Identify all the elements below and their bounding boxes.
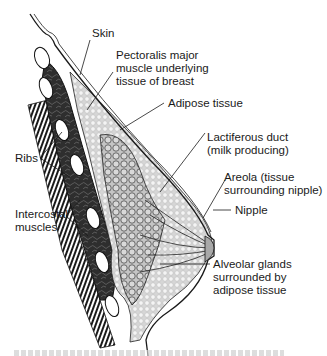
label-pectoralis-line2: muscle underlying (116, 62, 209, 75)
label-skin: Skin (92, 27, 114, 40)
label-alveolar-line3: adipose tissue (213, 284, 287, 297)
label-intercostal-line2: muscles (15, 221, 57, 234)
label-ribs: Ribs (15, 152, 38, 165)
cropped-caption (14, 350, 284, 356)
label-areola-line2: surrounding nipple) (224, 184, 322, 197)
label-lactiferous-line1: Lactiferous duct (207, 131, 288, 144)
label-nipple: Nipple (235, 204, 268, 217)
label-pectoralis-line3: tissue of breast (116, 75, 194, 88)
label-alveolar-line2: surrounded by (213, 271, 287, 284)
label-intercostal-line1: Intercostal (15, 208, 68, 221)
label-lactiferous-line2: (milk producing) (207, 144, 289, 157)
label-areola-line1: Areola (tissue (224, 171, 294, 184)
label-adipose-tissue: Adipose tissue (168, 97, 243, 110)
label-pectoralis-line1: Pectoralis major (116, 49, 198, 62)
label-alveolar-line1: Alveolar glands (213, 258, 292, 271)
breast-anatomy-diagram: Skin Pectoralis major muscle underlying … (0, 0, 327, 356)
